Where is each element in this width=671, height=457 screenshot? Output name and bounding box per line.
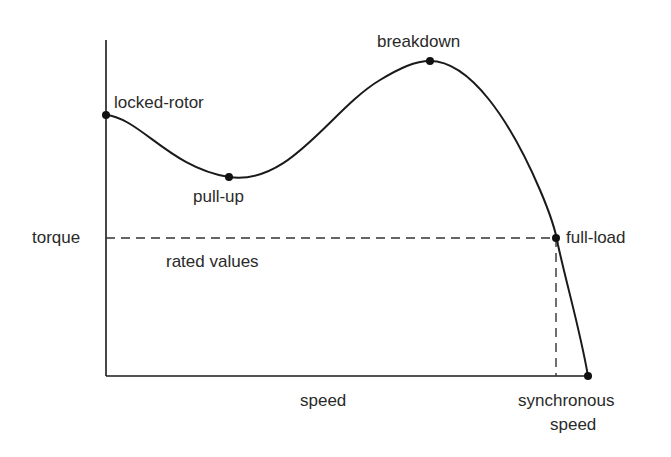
full-load-label: full-load — [566, 229, 626, 246]
rated-values-label: rated values — [166, 253, 259, 270]
x-axis-label: speed — [300, 392, 346, 409]
full-load-point — [552, 234, 560, 242]
pull-up-point — [225, 173, 233, 181]
locked-rotor-point — [102, 111, 110, 119]
locked-rotor-label: locked-rotor — [114, 94, 204, 111]
synchronous-speed-label-line2: speed — [550, 416, 596, 433]
y-axis-label: torque — [32, 229, 80, 246]
synchronous-speed-label-line1: synchronous — [518, 392, 614, 409]
synchronous-speed-point — [584, 372, 592, 380]
pull-up-label: pull-up — [193, 188, 244, 205]
breakdown-point — [426, 57, 434, 65]
breakdown-label: breakdown — [377, 33, 460, 50]
